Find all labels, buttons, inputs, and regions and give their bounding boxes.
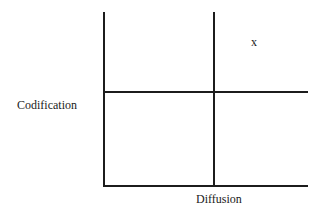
middle-vertical-divider [213,12,215,187]
x-axis-line [104,185,308,187]
x-axis-label: Diffusion [196,192,242,207]
middle-horizontal-divider [104,91,308,93]
y-axis-label: Codification [17,98,77,113]
position-marker: x [251,35,257,50]
y-axis-line [103,12,105,187]
